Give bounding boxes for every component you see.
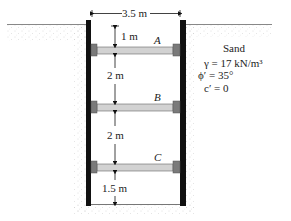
strut-label-a: A [154, 35, 161, 46]
braced-cut-diagram [0, 0, 291, 221]
spacing-label-a: 1 m [121, 31, 138, 42]
bottom-spacing-label: 1.5 m [102, 183, 127, 194]
soil-cohesion: c′ = 0 [204, 83, 229, 94]
spacing-label-c: 2 m [107, 130, 124, 141]
strut-c [91, 161, 180, 173]
waler-right-b [173, 101, 180, 113]
waler-right-a [173, 44, 180, 56]
strut-label-c: C [154, 152, 161, 163]
waler-right-c [173, 161, 180, 173]
soil-name: Sand [223, 43, 245, 54]
sheet-pile-left [86, 20, 91, 206]
soil-friction-angle: ϕ′ = 35° [198, 70, 233, 81]
spacing-label-b: 2 m [107, 70, 124, 81]
waler-left-c [91, 161, 97, 173]
strut-a [91, 44, 180, 56]
soil-unit-weight: γ = 17 kN/m³ [204, 58, 263, 69]
waler-left-a [91, 44, 97, 56]
strut-b [91, 101, 180, 113]
sheet-pile-right [180, 20, 186, 206]
width-label: 3.5 m [122, 8, 147, 19]
strut-label-b: B [154, 92, 161, 103]
waler-left-b [91, 101, 97, 113]
